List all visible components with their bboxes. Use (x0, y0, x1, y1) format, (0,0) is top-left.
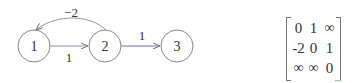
matrix-cell-1-0: -2 (291, 38, 306, 58)
edge-weight-1-to-2: 1 (66, 50, 73, 65)
matrix-cell-2-0: ∞ (291, 58, 306, 78)
matrix-cell-0-1: 1 (306, 18, 321, 38)
matrix-cell-1-2: 1 (321, 38, 338, 58)
matrix-cell-0-2: ∞ (321, 18, 338, 38)
matrix-cell-1-1: 0 (306, 38, 321, 58)
edge-weight-2-to-3: 1 (139, 28, 146, 43)
node-2: 2 (89, 30, 121, 62)
svg-text:3: 3 (174, 39, 181, 54)
svg-text:1: 1 (31, 39, 38, 54)
matrix-cell-2-1: ∞ (306, 58, 321, 78)
svg-text:2: 2 (102, 39, 109, 54)
node-3: 3 (161, 30, 193, 62)
graph-diagram: −2 1 1 1 2 3 (0, 0, 220, 83)
matrix-cell-0-0: 0 (291, 18, 306, 38)
matrix-cell-2-2: 0 (321, 58, 338, 78)
adjacency-matrix: 0 1 ∞ -2 0 1 ∞ ∞ 0 (286, 17, 341, 79)
edge-weight-2-to-1: −2 (64, 5, 78, 20)
node-1: 1 (18, 30, 50, 62)
